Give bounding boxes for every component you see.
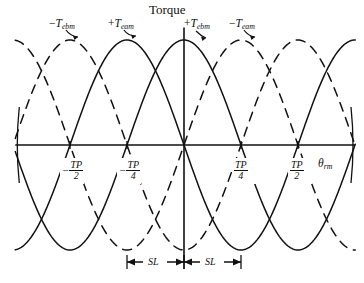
tick-fraction: TP4: [234, 160, 248, 181]
x-axis-title-sub: rm: [324, 162, 333, 171]
curve-label-leader-3: [244, 30, 255, 37]
curve-label-neg-team: −Team: [229, 18, 255, 31]
x-tick-label-neg-tp-4: −TP4: [119, 160, 140, 181]
tick-fraction: TP2: [290, 160, 304, 181]
x-tick-label-pos-tp-2: TP2: [290, 160, 304, 181]
curve-label-pos-tebm: +Tebm: [184, 18, 210, 31]
curve-label-pos-team: +Team: [108, 18, 134, 31]
x-tick-label-neg-tp-2: −TP2: [62, 160, 83, 181]
curve-label-sub: eam: [121, 22, 134, 31]
plot-canvas: [0, 0, 364, 283]
tick-fraction: TP4: [126, 160, 140, 181]
tick-sign: −: [62, 165, 69, 176]
curve-label-leader-0: [66, 30, 78, 37]
curve-label-sub: eam: [242, 22, 255, 31]
y-axis-title: Torque: [149, 3, 186, 16]
tick-denominator: 2: [69, 171, 83, 181]
curve-label-leader-1: [124, 30, 136, 36]
x-axis-title: θrm: [318, 158, 332, 171]
tick-denominator: 2: [290, 171, 304, 181]
span-label-sl-left: SL: [148, 257, 159, 267]
tick-sign: −: [119, 165, 126, 176]
curve-label-neg-tebm: −Tebm: [49, 18, 75, 31]
tick-fraction: TP2: [69, 160, 83, 181]
x-tick-label-pos-tp-4: TP4: [234, 160, 248, 181]
curve-label-leader-2: [196, 31, 206, 38]
tick-denominator: 4: [126, 171, 140, 181]
tick-denominator: 4: [234, 171, 248, 181]
curve-label-sub: ebm: [62, 22, 75, 31]
torque-vs-rotor-angle-figure: Torque θrm −Tebm +Team +Tebm −Team −TP2 …: [0, 0, 364, 283]
curve-label-sub: ebm: [197, 22, 210, 31]
curve-label-leader-arrow-1: [131, 35, 136, 40]
span-label-sl-right: SL: [205, 257, 216, 267]
